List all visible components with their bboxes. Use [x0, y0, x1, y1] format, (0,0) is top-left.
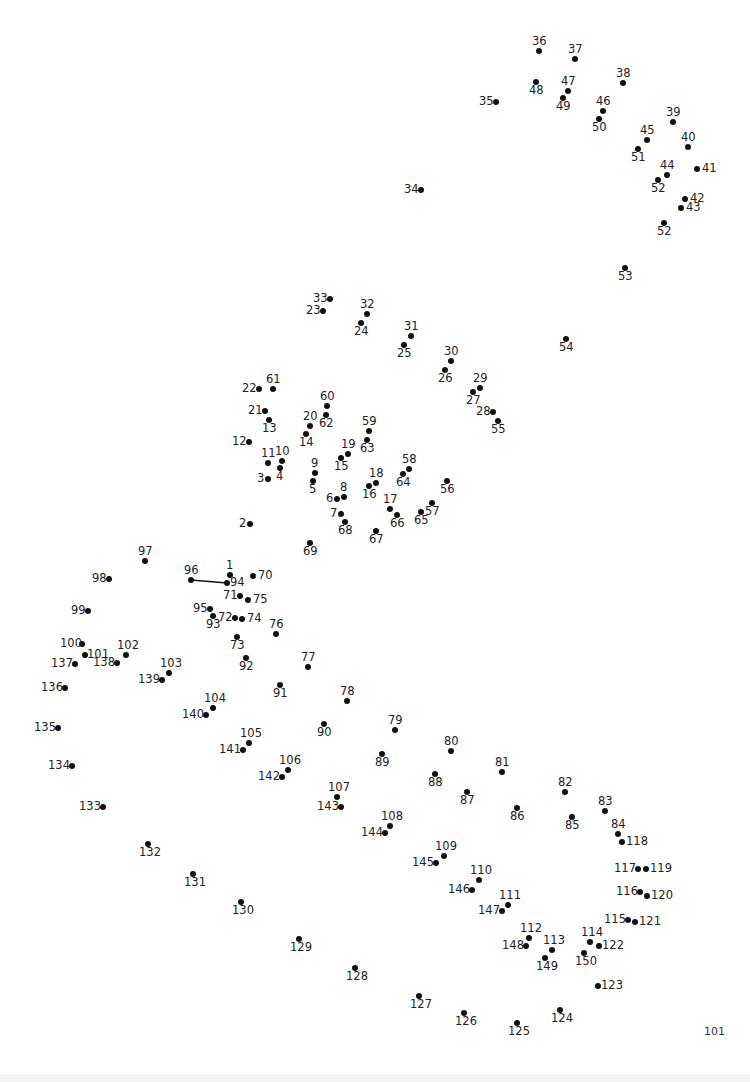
dot-81[interactable] [499, 769, 505, 775]
dot-46[interactable] [600, 108, 606, 114]
dot-76[interactable] [273, 631, 279, 637]
dot-label: 39 [666, 107, 681, 119]
dot-98[interactable] [106, 576, 112, 582]
dot-111[interactable] [505, 902, 511, 908]
dot-78[interactable] [344, 698, 350, 704]
dot-label: 78 [340, 686, 355, 698]
dot-97[interactable] [142, 558, 148, 564]
dot-label: 11 [261, 448, 276, 460]
dot-31[interactable] [408, 333, 414, 339]
dot-label: 43 [686, 202, 701, 214]
dot-8[interactable] [341, 494, 347, 500]
dot-121[interactable] [632, 919, 638, 925]
dot-label: 92 [239, 661, 254, 673]
dot-108[interactable] [387, 823, 393, 829]
dot-10[interactable] [279, 458, 285, 464]
dot-103[interactable] [166, 670, 172, 676]
dot-106[interactable] [285, 767, 291, 773]
dot-30[interactable] [448, 358, 454, 364]
dot-41[interactable] [694, 166, 700, 172]
dot-104[interactable] [210, 705, 216, 711]
dot-label: 34 [404, 184, 419, 196]
dot-39[interactable] [670, 119, 676, 125]
dot-33[interactable] [327, 296, 333, 302]
dot-label: 140 [182, 709, 204, 721]
dot-6[interactable] [334, 496, 340, 502]
dot-79[interactable] [392, 727, 398, 733]
dot-96[interactable] [188, 577, 194, 583]
dot-109[interactable] [441, 853, 447, 859]
dot-99[interactable] [85, 608, 91, 614]
dot-110[interactable] [476, 877, 482, 883]
page-edge [0, 1074, 750, 1082]
dot-70[interactable] [250, 573, 256, 579]
dot-38[interactable] [620, 80, 626, 86]
dot-83[interactable] [602, 808, 608, 814]
dot-40[interactable] [685, 144, 691, 150]
dot-75[interactable] [245, 597, 251, 603]
dot-44[interactable] [664, 172, 670, 178]
dot-112[interactable] [526, 935, 532, 941]
dot-32[interactable] [364, 311, 370, 317]
dot-2[interactable] [247, 521, 253, 527]
dot-36[interactable] [536, 48, 542, 54]
dot-label: 13 [262, 423, 277, 435]
dot-72[interactable] [232, 615, 238, 621]
dot-label: 15 [334, 461, 349, 473]
dot-11[interactable] [265, 460, 271, 466]
dot-95[interactable] [207, 606, 213, 612]
dot-3[interactable] [265, 476, 271, 482]
dot-label: 67 [369, 534, 384, 546]
dot-29[interactable] [477, 385, 483, 391]
drawn-segment [191, 580, 227, 583]
dot-74[interactable] [239, 616, 245, 622]
dot-82[interactable] [562, 789, 568, 795]
dot-label: 53 [618, 271, 633, 283]
dot-21[interactable] [262, 408, 268, 414]
dot-61[interactable] [270, 386, 276, 392]
dot-43[interactable] [678, 205, 684, 211]
dot-label: 121 [639, 916, 661, 928]
dot-80[interactable] [448, 748, 454, 754]
dot-label: 36 [532, 36, 547, 48]
dot-84[interactable] [615, 831, 621, 837]
dot-35[interactable] [493, 99, 499, 105]
dot-28[interactable] [490, 409, 496, 415]
dot-18[interactable] [373, 480, 379, 486]
dot-label: 98 [92, 573, 107, 585]
dot-9[interactable] [312, 470, 318, 476]
dot-59[interactable] [366, 428, 372, 434]
dot-19[interactable] [345, 451, 351, 457]
dot-label: 46 [596, 96, 611, 108]
dot-119[interactable] [643, 866, 649, 872]
dot-17[interactable] [387, 506, 393, 512]
dot-label: 118 [626, 836, 648, 848]
dot-12[interactable] [246, 439, 252, 445]
dot-120[interactable] [644, 893, 650, 899]
dot-label: 103 [160, 658, 182, 670]
dot-77[interactable] [305, 664, 311, 670]
dot-118[interactable] [619, 839, 625, 845]
dot-label: 132 [139, 847, 161, 859]
dot-58[interactable] [406, 466, 412, 472]
dot-label: 111 [499, 890, 521, 902]
dot-47[interactable] [565, 88, 571, 94]
dot-114[interactable] [587, 939, 593, 945]
dot-45[interactable] [644, 137, 650, 143]
dot-105[interactable] [246, 740, 252, 746]
dot-7[interactable] [338, 511, 344, 517]
dot-label: 51 [631, 152, 646, 164]
dot-label: 12 [232, 436, 247, 448]
dot-71[interactable] [237, 593, 243, 599]
dot-22[interactable] [256, 386, 262, 392]
dot-113[interactable] [549, 947, 555, 953]
dot-label: 137 [51, 658, 73, 670]
dot-23[interactable] [320, 308, 326, 314]
dot-20[interactable] [307, 423, 313, 429]
dot-label: 58 [402, 454, 417, 466]
dot-102[interactable] [123, 652, 129, 658]
dot-37[interactable] [572, 56, 578, 62]
dot-60[interactable] [324, 403, 330, 409]
dot-34[interactable] [418, 187, 424, 193]
dot-label: 47 [561, 76, 576, 88]
